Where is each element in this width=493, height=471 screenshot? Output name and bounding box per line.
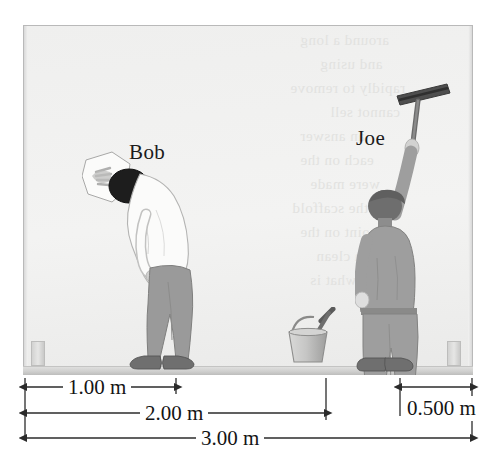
joe-arm-down xyxy=(361,240,367,294)
window-jamb-right xyxy=(468,26,472,372)
window-jamb-left xyxy=(24,26,28,372)
dimension-label-3m: 3.00 m xyxy=(196,426,264,451)
bleed-text-line: around a long xyxy=(300,32,389,49)
person-joe xyxy=(355,80,460,375)
label-joe: Joe xyxy=(356,126,385,151)
bleed-text-line: and using xyxy=(320,56,382,73)
dimension-label-1m: 1.00 m xyxy=(63,375,131,400)
figure-canvas: around a long and using rapidly to remov… xyxy=(0,0,493,471)
bob-shoe-right xyxy=(163,356,195,369)
label-bob: Bob xyxy=(129,140,165,165)
bucket-body xyxy=(289,332,327,362)
sill-post-left xyxy=(31,341,45,366)
bob-shoe-left xyxy=(130,356,162,369)
person-bob xyxy=(82,150,212,375)
prop-bucket xyxy=(281,307,343,369)
joe-shoe-right xyxy=(385,358,413,371)
joe-hand-down xyxy=(355,292,369,308)
dimension-label-2m: 2.00 m xyxy=(140,401,208,426)
bob-pants xyxy=(147,265,193,360)
dimension-block: 1.00 m 0.500 m 2.00 m 3.00 m xyxy=(0,376,493,471)
dimension-label-0-5m: 0.500 m xyxy=(402,396,481,421)
squeegee-icon xyxy=(397,84,450,142)
bleed-text-line: what is xyxy=(310,272,356,289)
joe-shoe-left xyxy=(357,358,386,371)
